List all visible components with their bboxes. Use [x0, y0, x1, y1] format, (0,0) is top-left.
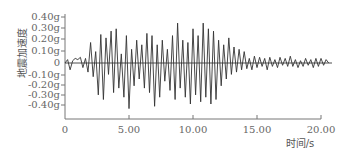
- x-tick: 10.00: [179, 115, 208, 135]
- x-axis-title: 时间/s: [286, 137, 315, 149]
- x-tick: 20.00: [307, 115, 336, 135]
- y-tick-label: 0.30g: [31, 22, 60, 33]
- y-tick-label: 0.10g: [31, 45, 60, 56]
- y-tick: 0.20g: [31, 33, 65, 44]
- x-tick-label: 20.00: [307, 124, 336, 135]
- x-tick-label: 15.00: [243, 124, 272, 135]
- y-tick: -0.40g: [28, 99, 65, 110]
- y-tick: 0: [54, 57, 60, 68]
- y-axis-title: 地震加速度: [16, 28, 28, 78]
- y-tick-label: 0.40g: [31, 11, 60, 22]
- y-tick: 0.30g: [31, 22, 65, 33]
- x-tick-label: 10.00: [179, 124, 208, 135]
- x-tick: 5.00: [118, 115, 140, 135]
- x-tick-label: 5.00: [118, 124, 140, 135]
- y-tick: 0.40g: [31, 11, 65, 22]
- acceleration-time-history-chart: 地震加速度 0.40g 0.30g 0.20g 0.10g 0 -0.10g -…: [0, 0, 346, 152]
- acceleration-waveform: [65, 23, 329, 109]
- x-tick-label: 0: [62, 124, 68, 135]
- y-tick: 0.10g: [31, 45, 65, 56]
- y-tick-label: 0.20g: [31, 33, 60, 44]
- y-tick-label: 0: [54, 57, 60, 68]
- x-tick: 0: [62, 124, 68, 135]
- y-ticks: 0.40g 0.30g 0.20g 0.10g 0 -0.10g -0.20g …: [28, 11, 65, 110]
- x-ticks: 0 5.00 10.00 15.00 20.00: [62, 115, 336, 135]
- x-tick: 15.00: [243, 115, 272, 135]
- y-tick-label: -0.40g: [28, 99, 61, 110]
